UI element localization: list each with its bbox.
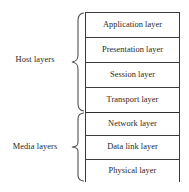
layer-stack: Application layer Presentation layer Ses…	[85, 12, 180, 182]
layer-box-data-link: Data link layer	[86, 136, 179, 159]
layer-box-transport: Transport layer	[86, 88, 179, 113]
host-layers-group-label: Host layers	[0, 56, 70, 64]
layer-box-physical: Physical layer	[86, 160, 179, 183]
layer-box-network: Network layer	[86, 113, 179, 136]
left-curly-brace-icon-media	[70, 112, 85, 182]
layer-box-application: Application layer	[86, 13, 179, 38]
osi-model-diagram: Host layers Media layers Application lay…	[0, 0, 189, 192]
left-curly-brace-icon-host	[70, 12, 85, 112]
layer-box-session: Session layer	[86, 63, 179, 88]
layer-box-presentation: Presentation layer	[86, 38, 179, 63]
media-layers-group-label: Media layers	[0, 143, 70, 151]
